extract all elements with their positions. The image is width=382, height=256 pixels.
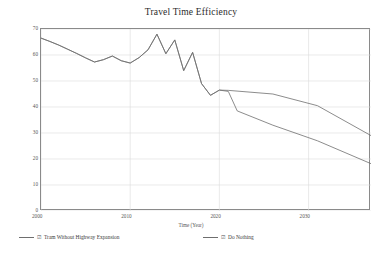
series-line-0 [41, 34, 371, 135]
series-line-1 [41, 34, 371, 163]
legend-line-swatch [203, 237, 218, 238]
y-tick-label: 70 [22, 26, 38, 31]
x-axis-label: Time (Year) [0, 222, 382, 228]
legend-item-label: Tram Without Highway Expansion [44, 234, 119, 240]
plot-lines [41, 29, 371, 211]
x-tick-label: 2030 [300, 213, 310, 219]
y-tick-label: 50 [22, 78, 38, 83]
x-tick-label: 2020 [210, 213, 220, 219]
y-tick-label: 20 [22, 156, 38, 161]
legend-checkbox-icon[interactable]: ☑ [37, 234, 41, 240]
x-tick-label: 2000 [32, 213, 42, 219]
chart-legend: ☑ Tram Without Highway Expansion ☑ Do No… [0, 233, 382, 247]
chart-title: Travel Time Efficiency [0, 7, 382, 17]
legend-line-swatch [19, 237, 34, 238]
y-tick-label: 40 [22, 104, 38, 109]
legend-item-tram-without-highway-expansion[interactable]: ☑ Tram Without Highway Expansion [19, 234, 119, 240]
legend-item-label: Do Nothing [228, 234, 254, 240]
x-tick-label: 2010 [121, 213, 131, 219]
y-tick-label: 0 [22, 208, 38, 213]
legend-checkbox-icon[interactable]: ☑ [221, 234, 225, 240]
y-tick-label: 10 [22, 182, 38, 187]
y-tick-label: 60 [22, 52, 38, 57]
legend-item-do-nothing[interactable]: ☑ Do Nothing [203, 234, 254, 240]
y-tick-label: 30 [22, 130, 38, 135]
plot-area [40, 28, 370, 210]
chart-screenshot: Travel Time Efficiency 010203040506070 P… [0, 0, 382, 256]
